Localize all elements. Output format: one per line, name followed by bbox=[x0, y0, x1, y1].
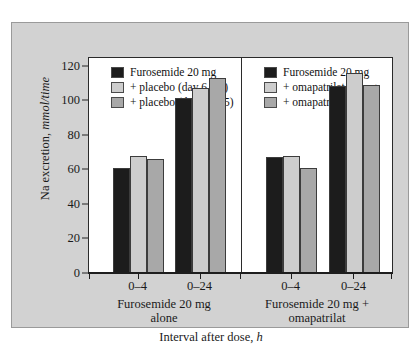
y-tick-label: 80 bbox=[68, 127, 81, 142]
y-tick-label: 20 bbox=[68, 231, 81, 246]
x-category-label: 0–24 bbox=[187, 279, 212, 294]
x-category-label: 0–24 bbox=[341, 279, 366, 294]
panel-caption-right-line1: Furosemide 20 mg + bbox=[237, 297, 397, 311]
y-tick-label: 60 bbox=[68, 162, 81, 177]
panel-caption-left-line2: alone bbox=[84, 311, 244, 325]
panel-caption-right: Furosemide 20 mg + omapatrilat bbox=[237, 297, 397, 325]
x-category-label: 0–4 bbox=[281, 279, 300, 294]
bar bbox=[130, 156, 147, 274]
bar bbox=[283, 156, 300, 274]
x-axis-category-labels: 0–40–240–40–24 bbox=[88, 279, 393, 297]
x-axis-title: Interval after dose, h bbox=[12, 330, 410, 345]
bar bbox=[266, 157, 283, 273]
panel-caption-left-line1: Furosemide 20 mg bbox=[84, 297, 244, 311]
bar bbox=[346, 73, 363, 273]
bar-group bbox=[266, 58, 317, 273]
panel-caption-right-line2: omapatrilat bbox=[237, 311, 397, 325]
panel-divider bbox=[241, 58, 242, 273]
plot-area: Furosemide 20 mg+ placebo (day 6–10)+ pl… bbox=[88, 57, 393, 273]
panel-captions: Furosemide 20 mg alone Furosemide 20 mg … bbox=[88, 297, 393, 331]
bar-group bbox=[175, 58, 226, 273]
x-axis-title-units: h bbox=[256, 330, 262, 344]
bar bbox=[363, 85, 380, 273]
bar bbox=[209, 78, 226, 273]
bar bbox=[147, 159, 164, 273]
plot-inner: Furosemide 20 mg+ placebo (day 6–10)+ pl… bbox=[89, 58, 392, 273]
bar bbox=[329, 86, 346, 273]
bar bbox=[113, 168, 130, 273]
y-tick-label: 100 bbox=[61, 93, 80, 108]
bar-group bbox=[329, 58, 380, 273]
x-axis-title-text: Interval after dose, bbox=[159, 330, 253, 344]
bar bbox=[300, 168, 317, 273]
y-tick-label: 40 bbox=[68, 196, 81, 211]
y-axis-ticks: 020406080100120 bbox=[48, 89, 88, 279]
bar-group bbox=[113, 58, 164, 273]
x-category-label: 0–4 bbox=[128, 279, 147, 294]
panel-caption-left: Furosemide 20 mg alone bbox=[84, 297, 244, 325]
y-tick-label: 0 bbox=[74, 266, 80, 281]
bar bbox=[175, 98, 192, 273]
figure-frame: Na excretion, mmol/time 020406080100120 … bbox=[11, 22, 409, 328]
y-tick-label: 120 bbox=[61, 58, 80, 73]
bar bbox=[192, 88, 209, 273]
